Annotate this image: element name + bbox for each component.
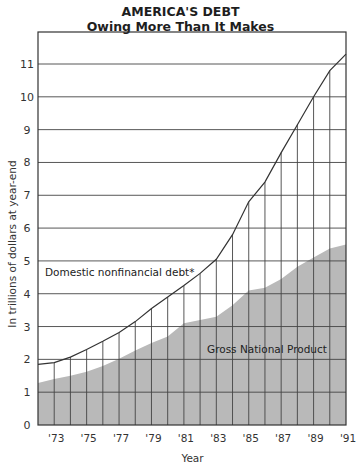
y-tick-label: 5: [24, 255, 31, 268]
x-axis-label: Year: [0, 452, 361, 464]
gnp-series-label: Gross National Product: [207, 343, 327, 355]
y-tick-label: 11: [20, 58, 34, 71]
x-tick-label: '91: [340, 432, 356, 444]
x-tick-label: '75: [81, 432, 97, 444]
x-tick-label: '73: [48, 432, 64, 444]
x-tick-label: '81: [178, 432, 194, 444]
y-tick-label: 4: [24, 288, 31, 301]
y-tick-label: 1: [24, 386, 31, 399]
y-tick-label: 10: [20, 91, 34, 104]
x-tick-label: '89: [307, 432, 323, 444]
y-tick-label: 3: [24, 321, 31, 334]
x-tick-label: '87: [275, 432, 291, 444]
chart-plot: 01234567891011'73'75'77'79'81'83'85'87'8…: [0, 0, 361, 469]
y-tick-label: 7: [24, 189, 31, 202]
x-tick-label: '79: [145, 432, 161, 444]
y-axis-label: In trillions of dollars at year-end: [6, 134, 18, 354]
y-tick-label: 6: [24, 222, 31, 235]
x-tick-label: '85: [243, 432, 259, 444]
x-tick-label: '83: [210, 432, 226, 444]
y-tick-label: 0: [24, 419, 31, 432]
x-tick-label: '77: [113, 432, 129, 444]
y-tick-label: 2: [24, 353, 31, 366]
y-tick-label: 8: [24, 156, 31, 169]
y-tick-label: 9: [24, 124, 31, 137]
debt-series-label: Domestic nonfinancial debt*: [45, 266, 194, 278]
